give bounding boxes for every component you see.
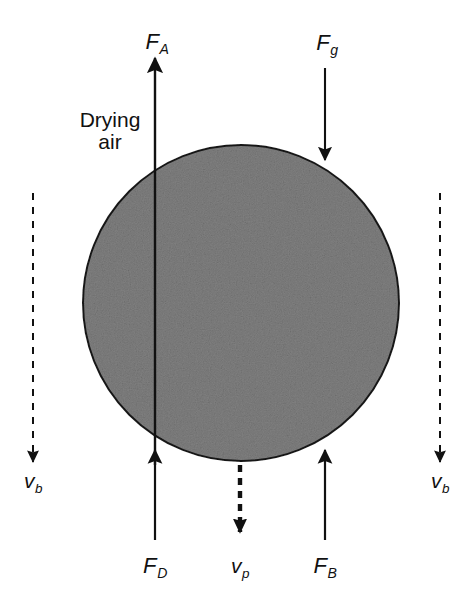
label-drying-air: Drying air (80, 109, 141, 154)
label-velocity-vb-left: vb (24, 469, 42, 493)
label-force-fa: FA (145, 29, 168, 55)
label-force-fd: FD (143, 553, 167, 579)
label-velocity-vp: vp (231, 554, 249, 578)
drying-air-line-1: Drying (80, 109, 141, 131)
drying-air-line-2: air (80, 131, 141, 153)
label-velocity-vb-right: vb (431, 469, 449, 493)
force-balance-diagram: FA Fg FD FB vb vb vp Drying air (0, 0, 470, 601)
drying-particle (83, 145, 399, 461)
diagram-canvas (0, 0, 470, 601)
label-force-fg: Fg (316, 30, 338, 56)
label-force-fb: FB (313, 553, 336, 579)
